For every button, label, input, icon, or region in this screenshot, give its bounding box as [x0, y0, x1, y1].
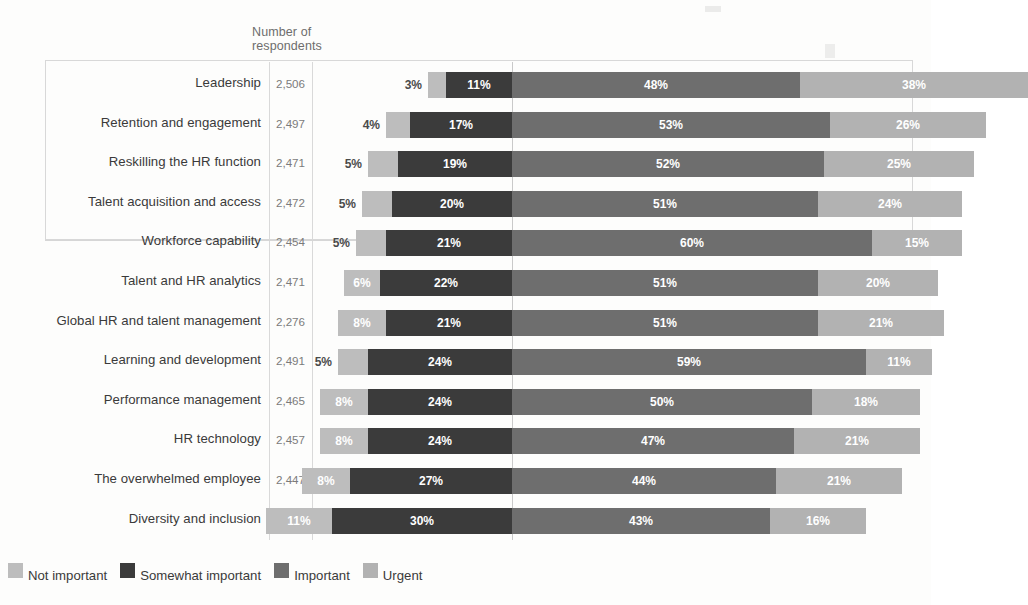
bar-segment-important: 44%: [512, 468, 776, 494]
chart-row: Leadership2,50611%48%38%3%: [0, 66, 931, 105]
bar-segment-not-important: [386, 112, 410, 138]
row-label: HR technology: [174, 431, 261, 446]
row-label: Reskilling the HR function: [109, 154, 261, 169]
legend-label: Not important: [28, 568, 107, 583]
row-label: Talent acquisition and access: [88, 194, 261, 209]
row-label: Global HR and talent management: [56, 313, 261, 328]
bar-segment-important: 51%: [512, 310, 818, 336]
stacked-bar: 8%21%51%21%: [338, 310, 944, 336]
bar-segment-urgent: 21%: [818, 310, 944, 336]
stacked-bar: 11%30%43%16%: [266, 508, 866, 534]
legend-swatch-icon: [363, 563, 378, 578]
bar-segment-urgent: 26%: [830, 112, 986, 138]
chart-row: Performance management2,4658%24%50%18%: [0, 383, 931, 422]
stacked-bar: 19%52%25%: [368, 151, 974, 177]
bar-segment-not-important: [368, 151, 398, 177]
bar-segment-somewhat-important: 24%: [368, 389, 512, 415]
bar-segment-not-important-label: 4%: [344, 112, 380, 138]
bar-segment-important: 50%: [512, 389, 812, 415]
bar-segment-not-important: [356, 230, 386, 256]
bar-segment-important: 53%: [512, 112, 830, 138]
row-respondent-count: 2,471: [276, 156, 305, 169]
legend-item-somewhat-important: Somewhat important: [120, 563, 261, 583]
row-respondent-count: 2,447: [276, 473, 305, 486]
legend-label: Important: [294, 568, 350, 583]
bar-segment-urgent: 21%: [794, 428, 920, 454]
bar-segment-important: 48%: [512, 72, 800, 98]
bar-segment-somewhat-important: 21%: [386, 230, 512, 256]
row-label: Workforce capability: [142, 233, 262, 248]
row-respondent-count: 2,506: [276, 77, 305, 90]
bar-segment-urgent: 38%: [800, 72, 1028, 98]
row-respondent-count: 2,457: [276, 433, 305, 446]
bar-segment-urgent: 16%: [770, 508, 866, 534]
stacked-bar: 11%48%38%: [428, 72, 1028, 98]
bar-segment-not-important-label: 5%: [320, 191, 356, 217]
row-label: The overwhelmed employee: [94, 471, 261, 486]
chart-row: Reskilling the HR function2,47119%52%25%…: [0, 145, 931, 184]
stacked-bar: 17%53%26%: [386, 112, 986, 138]
stacked-bar: 21%60%15%: [356, 230, 962, 256]
legend-swatch-icon: [120, 563, 135, 578]
row-label: Performance management: [104, 392, 261, 407]
bar-segment-not-important: 8%: [302, 468, 350, 494]
bar-segment-not-important: 6%: [344, 270, 380, 296]
row-label: Diversity and inclusion: [129, 511, 261, 526]
bar-segment-somewhat-important: 17%: [410, 112, 512, 138]
bar-segment-important: 51%: [512, 191, 818, 217]
bar-segment-important: 51%: [512, 270, 818, 296]
chart-legend: Not importantSomewhat importantImportant…: [8, 563, 435, 585]
bar-segment-somewhat-important: 24%: [368, 428, 512, 454]
chart-row: Talent and HR analytics2,4716%22%51%20%: [0, 264, 931, 303]
bar-segment-somewhat-important: 22%: [380, 270, 512, 296]
chart-row: Workforce capability2,45421%60%15%5%: [0, 224, 931, 263]
bar-segment-not-important: [428, 72, 446, 98]
bar-segment-urgent: 25%: [824, 151, 974, 177]
bar-segment-urgent: 11%: [866, 349, 932, 375]
bar-segment-somewhat-important: 19%: [398, 151, 512, 177]
bar-segment-not-important: 8%: [320, 389, 368, 415]
row-label: Learning and development: [104, 352, 261, 367]
bar-segment-not-important: [362, 191, 392, 217]
row-respondent-count: 2,497: [276, 117, 305, 130]
bar-segment-not-important-label: 5%: [314, 230, 350, 256]
bar-segment-not-important: 8%: [338, 310, 386, 336]
row-respondent-count: 2,276: [276, 315, 305, 328]
row-respondent-count: 2,471: [276, 275, 305, 288]
bar-segment-not-important-label: 3%: [386, 72, 422, 98]
chart-row: Learning and development2,49124%59%11%5%: [0, 343, 931, 382]
bar-segment-somewhat-important: 30%: [332, 508, 512, 534]
bar-segment-urgent: 20%: [818, 270, 938, 296]
row-label: Talent and HR analytics: [121, 273, 261, 288]
bar-segment-important: 59%: [512, 349, 866, 375]
stacked-bar: 6%22%51%20%: [344, 270, 938, 296]
bar-segment-not-important: 8%: [320, 428, 368, 454]
legend-label: Somewhat important: [140, 568, 261, 583]
chart-row: Retention and engagement2,49717%53%26%4%: [0, 106, 931, 145]
legend-swatch-icon: [8, 563, 23, 578]
stacked-bar: 8%24%47%21%: [320, 428, 920, 454]
bar-segment-somewhat-important: 11%: [446, 72, 512, 98]
bar-segment-urgent: 24%: [818, 191, 962, 217]
row-label: Retention and engagement: [101, 115, 261, 130]
stacked-bar: 8%24%50%18%: [320, 389, 920, 415]
bar-segment-somewhat-important: 27%: [350, 468, 512, 494]
stacked-bar: 8%27%44%21%: [302, 468, 902, 494]
bar-segment-somewhat-important: 20%: [392, 191, 512, 217]
bar-segment-not-important: [338, 349, 368, 375]
chart-row: Talent acquisition and access2,47220%51%…: [0, 185, 931, 224]
chart-row: Global HR and talent management2,2768%21…: [0, 304, 931, 343]
bar-segment-urgent: 21%: [776, 468, 902, 494]
legend-label: Urgent: [383, 568, 423, 583]
bar-segment-somewhat-important: 24%: [368, 349, 512, 375]
bar-segment-not-important-label: 5%: [296, 349, 332, 375]
chart-row: HR technology2,4578%24%47%21%: [0, 422, 931, 461]
row-respondent-count: 2,472: [276, 196, 305, 209]
row-label: Leadership: [195, 75, 261, 90]
row-respondent-count: 2,465: [276, 394, 305, 407]
bar-segment-important: 52%: [512, 151, 824, 177]
legend-item-not-important: Not important: [8, 563, 107, 583]
row-respondent-count: 2,454: [276, 235, 305, 248]
stacked-bar: 24%59%11%: [338, 349, 932, 375]
chart-row: Diversity and inclusion2,41411%30%43%16%: [0, 502, 931, 541]
